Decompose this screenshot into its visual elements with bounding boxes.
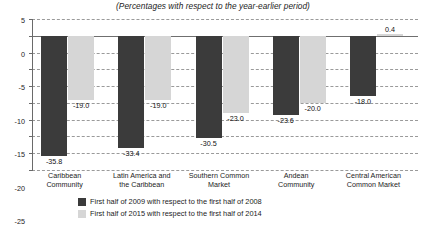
bar xyxy=(350,36,376,96)
bars-layer: -35.8-19.0-33.4-19.0-30.5-23.0-23.6-20.0… xyxy=(32,19,418,170)
y-axis-tick-label: 0 xyxy=(21,49,25,58)
y-axis-tick-label: -10 xyxy=(15,116,25,125)
legend-swatch-icon xyxy=(78,210,86,218)
legend-swatch-icon xyxy=(78,198,86,206)
bar xyxy=(223,36,249,113)
category-label-line: Market xyxy=(180,181,257,190)
chart-container: (Percentages with respect to the year-ea… xyxy=(0,0,426,228)
category-label-line: Community xyxy=(258,181,335,190)
y-axis-tick-label: -25 xyxy=(15,217,25,226)
y-axis-tick: -40 xyxy=(29,170,33,171)
bar-value-label: -33.4 xyxy=(110,149,152,158)
bar xyxy=(68,36,94,100)
legend-item[interactable]: First half of 2009 with respect to the f… xyxy=(78,196,368,207)
category-label: CaribbeanCommunity xyxy=(26,172,103,189)
bar xyxy=(41,36,67,156)
bar-value-label: -19.0 xyxy=(137,101,179,110)
legend-label: First half of 2009 with respect to the f… xyxy=(90,197,262,206)
bar-value-label: -23.0 xyxy=(215,114,257,123)
bar xyxy=(300,36,326,103)
bar xyxy=(118,36,144,148)
y-axis-tick-label: -5 xyxy=(19,83,25,92)
bar-value-label: -30.5 xyxy=(188,139,230,148)
bar-value-label: 0.4 xyxy=(369,25,411,34)
category-label: Southern CommonMarket xyxy=(180,172,257,189)
bar-value-label: -20.0 xyxy=(292,104,334,113)
category-axis-labels: CaribbeanCommunityLatin America andthe C… xyxy=(32,172,418,194)
plot-area: 50-5-10-15-20-25-30-35-40 -35.8-19.0-33.… xyxy=(32,19,418,170)
category-label: Central AmericanCommon Market xyxy=(335,172,412,189)
chart-title: (Percentages with respect to the year-ea… xyxy=(0,1,426,11)
category-label: AndeanCommunity xyxy=(258,172,335,189)
category-label-line: the Caribbean xyxy=(103,181,180,190)
bar xyxy=(145,36,171,100)
bar-value-label: -35.8 xyxy=(33,157,75,166)
chart-legend: First half of 2009 with respect to the f… xyxy=(78,196,368,220)
bar-value-label: -23.6 xyxy=(265,116,307,125)
category-label: Latin America andthe Caribbean xyxy=(103,172,180,189)
legend-label: First half of 2015 with respect to the f… xyxy=(90,209,262,218)
bar xyxy=(377,34,403,35)
y-axis-tick-label: 5 xyxy=(21,16,25,25)
bar-value-label: -18.0 xyxy=(342,97,384,106)
legend-item[interactable]: First half of 2015 with respect to the f… xyxy=(78,208,368,219)
y-axis-tick-label: -15 xyxy=(15,150,25,159)
y-axis-tick-label: -20 xyxy=(15,183,25,192)
category-label-line: Community xyxy=(26,181,103,190)
bar-value-label: -19.0 xyxy=(60,101,102,110)
category-label-line: Common Market xyxy=(335,181,412,190)
